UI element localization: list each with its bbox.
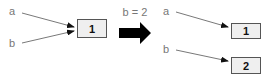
transition-label: b = 2	[123, 6, 148, 18]
transition: b = 2	[119, 6, 151, 44]
after-object-value-2: 2	[243, 60, 249, 72]
transition-arrow-icon	[119, 22, 151, 44]
after-var-a-label: a	[163, 5, 170, 17]
before-var-b-label: b	[9, 37, 15, 49]
before-state: a b 1	[9, 5, 107, 49]
before-var-a-label: a	[9, 5, 16, 17]
after-pointer-b-to-2	[176, 50, 228, 61]
reassignment-diagram: a b 1 b = 2 a b 1 2	[0, 0, 274, 84]
after-pointer-a-to-1	[176, 12, 228, 27]
after-var-b-label: b	[163, 43, 169, 55]
before-pointer-b-to-1	[22, 31, 74, 43]
after-state: a b 1 2	[163, 5, 261, 74]
before-object-value: 1	[89, 23, 95, 35]
before-pointer-a-to-1	[22, 13, 74, 27]
after-object-value-1: 1	[243, 25, 249, 37]
